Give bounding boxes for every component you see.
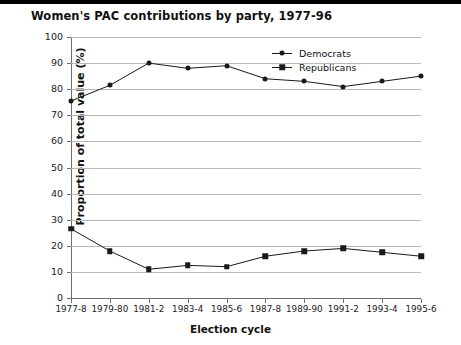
data-point-democrats-1987-8 — [263, 76, 268, 81]
data-point-republicans-1993-4 — [379, 250, 385, 256]
x-tick-label-1991-2: 1991-2 — [328, 304, 359, 314]
y-tick-label-100: 100 — [37, 31, 63, 42]
legend-swatch-republicans — [272, 67, 292, 68]
data-point-democrats-1981-2 — [146, 61, 151, 66]
gridline-0 — [71, 298, 421, 299]
data-point-democrats-1991-2 — [341, 84, 346, 89]
y-tick-label-wrap-10: 10 — [30, 266, 63, 278]
y-tick-90 — [67, 63, 71, 64]
data-point-democrats-1985-6 — [224, 63, 229, 68]
x-tick-2 — [149, 299, 150, 303]
series-lines — [71, 37, 421, 298]
legend-swatch-democrats — [272, 53, 292, 54]
top-rule-divider — [0, 0, 461, 4]
y-tick-label-wrap-50: 50 — [30, 162, 63, 174]
legend-label-democrats: Democrats — [299, 47, 351, 61]
x-tick-8 — [382, 299, 383, 303]
y-tick-label-70: 70 — [37, 109, 63, 120]
y-tick-label-wrap-90: 90 — [30, 57, 63, 69]
y-tick-label-wrap-0: 0 — [30, 292, 63, 304]
legend-item-republicans: Republicans — [272, 61, 356, 75]
x-axis-title: Election cycle — [0, 323, 461, 335]
square-marker-icon — [279, 64, 285, 70]
y-tick-label-40: 40 — [37, 188, 63, 199]
x-tick-9 — [421, 299, 422, 303]
y-tick-60 — [67, 141, 71, 142]
y-tick-label-60: 60 — [37, 135, 63, 146]
diamond-marker-icon — [280, 51, 285, 56]
y-tick-10 — [67, 272, 71, 273]
y-tick-label-wrap-30: 30 — [30, 214, 63, 226]
y-tick-label-50: 50 — [37, 162, 63, 173]
x-tick-label-1979-80: 1979-80 — [91, 304, 128, 314]
legend-item-democrats: Democrats — [272, 47, 356, 61]
x-tick-label-1995-6: 1995-6 — [405, 304, 436, 314]
data-point-republicans-1985-6 — [224, 264, 230, 270]
y-tick-40 — [67, 194, 71, 195]
y-tick-20 — [67, 246, 71, 247]
x-tick-1 — [110, 299, 111, 303]
data-point-republicans-1981-2 — [146, 267, 152, 273]
x-tick-0 — [71, 299, 72, 303]
y-tick-label-30: 30 — [37, 214, 63, 225]
series-line-republicans — [71, 229, 421, 269]
data-point-democrats-1979-80 — [107, 83, 112, 88]
y-tick-label-wrap-20: 20 — [30, 240, 63, 252]
chart-legend: Democrats Republicans — [272, 47, 356, 75]
y-tick-80 — [67, 89, 71, 90]
data-point-republicans-1989-90 — [302, 248, 308, 254]
data-point-republicans-1977-8 — [68, 226, 74, 232]
data-point-democrats-1977-8 — [69, 98, 74, 103]
y-tick-label-wrap-100: 100 — [30, 31, 63, 43]
y-tick-70 — [67, 115, 71, 116]
y-tick-100 — [67, 37, 71, 38]
legend-label-republicans: Republicans — [299, 61, 356, 75]
data-point-democrats-1989-90 — [302, 79, 307, 84]
series-line-democrats — [71, 63, 421, 101]
data-point-republicans-1979-80 — [107, 248, 113, 254]
x-tick-5 — [265, 299, 266, 303]
x-tick-label-1987-8: 1987-8 — [250, 304, 281, 314]
y-tick-50 — [67, 168, 71, 169]
data-point-republicans-1991-2 — [340, 246, 346, 252]
data-point-republicans-1983-4 — [185, 263, 191, 269]
x-tick-label-1983-4: 1983-4 — [172, 304, 203, 314]
data-point-republicans-1995-6 — [418, 253, 424, 259]
data-point-democrats-1983-4 — [185, 66, 190, 71]
x-tick-7 — [343, 299, 344, 303]
x-tick-4 — [227, 299, 228, 303]
chart-page: Women's PAC contributions by party, 1977… — [0, 0, 461, 345]
y-tick-label-wrap-80: 80 — [30, 83, 63, 95]
x-tick-6 — [304, 299, 305, 303]
x-tick-label-1989-90: 1989-90 — [286, 304, 323, 314]
y-tick-label-wrap-70: 70 — [30, 109, 63, 121]
y-tick-label-20: 20 — [37, 240, 63, 251]
y-tick-label-0: 0 — [37, 292, 63, 303]
x-tick-label-1985-6: 1985-6 — [211, 304, 242, 314]
y-tick-label-80: 80 — [37, 83, 63, 94]
y-tick-label-90: 90 — [37, 57, 63, 68]
data-point-democrats-1995-6 — [419, 74, 424, 79]
x-tick-label-1993-4: 1993-4 — [367, 304, 398, 314]
x-tick-label-1981-2: 1981-2 — [133, 304, 164, 314]
x-tick-label-1977-8: 1977-8 — [55, 304, 86, 314]
y-tick-label-10: 10 — [37, 266, 63, 277]
y-tick-30 — [67, 220, 71, 221]
y-tick-label-wrap-40: 40 — [30, 188, 63, 200]
x-tick-3 — [188, 299, 189, 303]
y-tick-label-wrap-60: 60 — [30, 135, 63, 147]
data-point-democrats-1993-4 — [380, 79, 385, 84]
plot-area — [71, 37, 421, 298]
data-point-republicans-1987-8 — [263, 253, 269, 259]
